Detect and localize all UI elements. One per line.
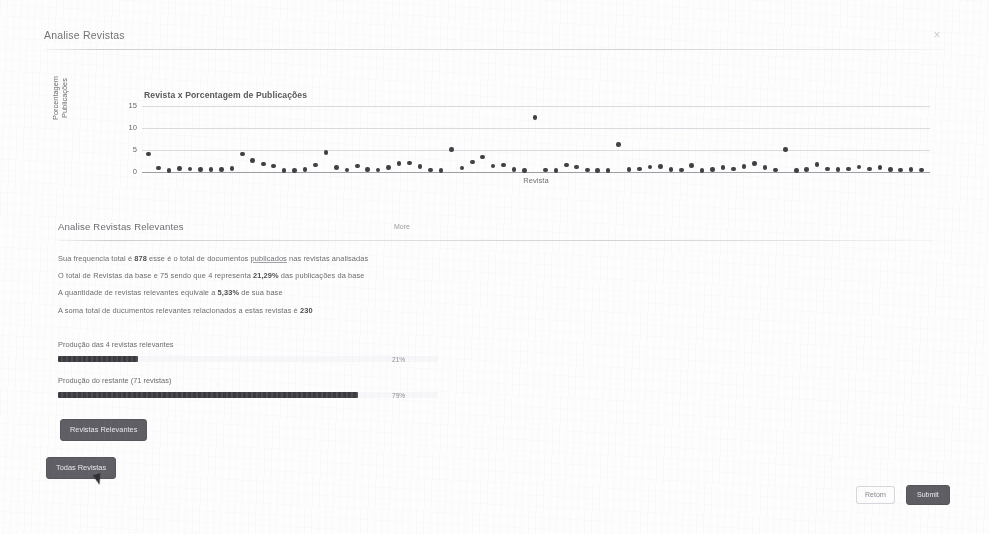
chart-data-point xyxy=(742,164,747,169)
progress-bar-fill xyxy=(58,356,138,362)
chart-data-point xyxy=(156,166,161,171)
todas-revistas-button[interactable]: Todas Revistas xyxy=(46,457,116,479)
chart-data-point xyxy=(334,165,339,170)
chart-y-tick-label: 15 xyxy=(129,101,137,110)
chart-data-point xyxy=(669,167,674,172)
chart-data-point xyxy=(595,168,600,173)
stat-line: A quantidade de revistas relevantes equi… xyxy=(58,288,283,297)
chart-gridline: 5 xyxy=(142,150,930,151)
chart-data-point xyxy=(616,142,621,147)
chart-data-point xyxy=(867,167,872,172)
chart-data-point xyxy=(365,167,370,172)
chart-data-point xyxy=(658,164,663,169)
stat-text: das publicações da base xyxy=(279,271,365,280)
progress-bar-fill xyxy=(58,392,358,398)
stat-text: Sua frequencia total é xyxy=(58,254,134,263)
chart-data-point xyxy=(648,165,653,170)
chart-data-point xyxy=(909,167,914,172)
chart-data-point xyxy=(303,167,308,172)
close-icon[interactable]: × xyxy=(930,28,944,42)
back-button[interactable]: Retorn xyxy=(856,486,895,504)
chart-data-point xyxy=(721,165,726,170)
chart-gridline: 10 xyxy=(142,128,930,129)
chart-data-point xyxy=(689,163,694,168)
progress-bar-rest xyxy=(58,392,438,398)
chart-data-point xyxy=(480,155,485,160)
submit-button[interactable]: Submit xyxy=(906,485,950,505)
chart-y-tick-label: 10 xyxy=(129,123,137,132)
chart-data-point xyxy=(585,168,590,173)
chart-gridline: 15 xyxy=(142,106,930,107)
chart-data-point xyxy=(919,168,924,173)
stat-text: A quantidade de revistas relevantes equi… xyxy=(58,288,218,297)
chart-data-point xyxy=(512,167,517,172)
chart-data-point xyxy=(554,168,559,173)
chart-data-point xyxy=(574,165,579,170)
chart-data-point xyxy=(240,152,245,157)
chart-data-point xyxy=(230,166,235,171)
stat-text: esse é o total de documentos xyxy=(147,254,251,263)
header-divider xyxy=(44,49,945,50)
chart-y-tick-label: 0 xyxy=(133,167,137,176)
revistas-relevantes-button[interactable]: Revistas Relevantes xyxy=(60,419,147,441)
chart-data-point xyxy=(460,166,465,171)
chart-data-point xyxy=(564,163,569,168)
stat-text: O total de Revistas da base e 75 sendo q… xyxy=(58,271,253,280)
chart-x-axis-label: Revista xyxy=(142,176,930,185)
chart-data-point xyxy=(188,167,193,172)
chart-plot-area: 051015 xyxy=(142,102,930,172)
chart-data-point xyxy=(324,150,329,155)
stat-value: 21,29% xyxy=(253,271,279,280)
chart-data-point xyxy=(292,168,297,173)
progress-bar-relevant xyxy=(58,356,438,362)
publication-percentage-chart: Revista x Porcentagem de Publicações Por… xyxy=(58,72,934,197)
progress-percent: 79% xyxy=(392,392,405,399)
chart-data-point xyxy=(543,168,548,173)
panel-divider xyxy=(58,240,934,241)
chart-data-point xyxy=(533,115,538,120)
chart-data-point xyxy=(177,166,182,171)
chart-data-point xyxy=(439,168,444,173)
chart-data-point xyxy=(355,164,360,169)
chart-data-point xyxy=(825,167,830,172)
chart-data-point xyxy=(763,165,768,170)
analysis-panel-title: Analise Revistas Relevantes xyxy=(58,221,184,232)
chart-data-point xyxy=(836,167,841,172)
chart-data-point xyxy=(345,168,350,173)
stat-value: 878 xyxy=(134,254,147,263)
page-title: Analise Revistas xyxy=(44,29,125,41)
chart-data-point xyxy=(606,168,611,173)
progress-label: Produção do restante (71 revistas) xyxy=(58,376,171,385)
chart-data-point xyxy=(470,160,475,165)
stat-text: nas revistas analisadas xyxy=(287,254,368,263)
chart-data-point xyxy=(501,163,506,168)
chart-data-point xyxy=(815,162,820,167)
stat-link[interactable]: publicados xyxy=(251,254,287,263)
stat-line: O total de Revistas da base e 75 sendo q… xyxy=(58,271,365,280)
analysis-panel-more-link[interactable]: More xyxy=(394,223,410,230)
chart-data-point xyxy=(198,167,203,172)
chart-data-point xyxy=(731,167,736,172)
chart-data-point xyxy=(710,167,715,172)
progress-percent: 21% xyxy=(392,356,405,363)
stat-line: Sua frequencia total é 878 esse é o tota… xyxy=(58,254,368,263)
chart-data-point xyxy=(261,162,266,167)
chart-data-point xyxy=(773,168,778,173)
chart-data-point xyxy=(888,167,893,172)
chart-title: Revista x Porcentagem de Publicações xyxy=(144,90,307,100)
stat-value: 230 xyxy=(300,306,313,315)
chart-data-point xyxy=(898,168,903,173)
chart-data-point xyxy=(428,168,433,173)
chart-data-point xyxy=(752,161,757,166)
chart-data-point xyxy=(804,167,809,172)
chart-data-point xyxy=(219,167,224,172)
chart-data-point xyxy=(783,147,788,152)
chart-data-point xyxy=(397,161,402,166)
chart-data-point xyxy=(522,168,527,173)
chart-data-point xyxy=(250,158,255,163)
stat-text: A soma total de ducumentos relevantes re… xyxy=(58,306,300,315)
chart-y-tick-label: 5 xyxy=(133,145,137,154)
chart-y-axis-label: Porcentagem Publicações xyxy=(52,68,69,128)
chart-data-point xyxy=(846,167,851,172)
chart-data-point xyxy=(146,152,151,157)
